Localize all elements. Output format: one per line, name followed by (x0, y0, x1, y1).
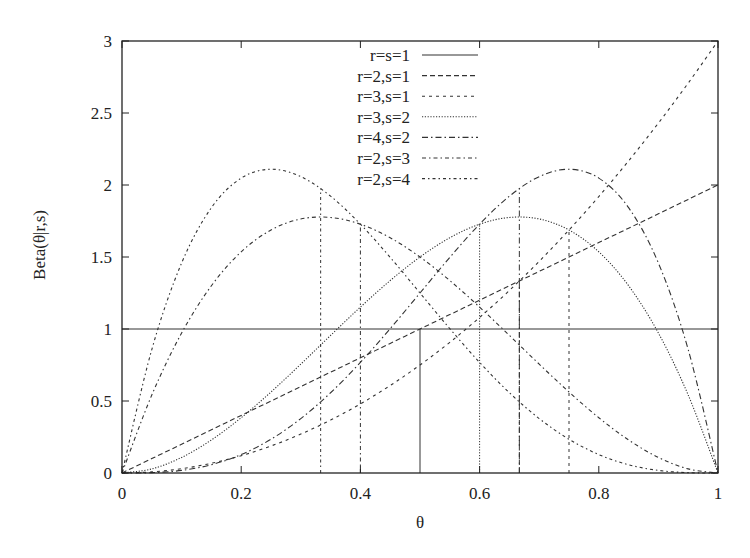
x-tick-label: 0.8 (588, 484, 609, 503)
legend-item: r=s=1 (370, 46, 478, 65)
y-tick-label: 1.5 (91, 248, 112, 267)
legend: r=s=1r=2,s=1r=3,s=1r=3,s=2r=4,s=2r=2,s=3… (357, 46, 478, 189)
legend-label: r=4,s=2 (357, 128, 410, 147)
x-axis-label: θ (416, 513, 424, 532)
legend-label: r=s=1 (370, 46, 410, 65)
y-tick-label: 1 (104, 320, 113, 339)
y-tick-label: 2.5 (91, 104, 112, 123)
y-tick-label: 0.5 (91, 392, 112, 411)
legend-label: r=3,s=1 (357, 87, 410, 106)
y-tick-label: 3 (104, 32, 113, 51)
legend-item: r=2,s=1 (357, 67, 478, 86)
legend-item: r=3,s=1 (357, 87, 478, 106)
x-tick-label: 0 (118, 484, 127, 503)
legend-label: r=2,s=4 (357, 170, 410, 189)
legend-item: r=2,s=3 (357, 149, 478, 168)
y-axis-label: Beta(θ|r,s) (30, 210, 49, 280)
legend-label: r=2,s=1 (357, 67, 410, 86)
legend-item: r=2,s=4 (357, 170, 478, 189)
x-tick-label: 0.6 (469, 484, 490, 503)
legend-label: r=2,s=3 (357, 149, 410, 168)
x-tick-label: 0.4 (350, 484, 372, 503)
y-tick-label: 2 (104, 176, 113, 195)
legend-label: r=3,s=2 (357, 108, 410, 127)
x-tick-label: 1 (714, 484, 723, 503)
beta-distribution-chart: 00.20.40.60.81 00.511.522.53 θ Beta(θ|r,… (0, 0, 750, 558)
x-tick-label: 0.2 (231, 484, 252, 503)
mean-marker-lines (321, 189, 569, 473)
legend-item: r=4,s=2 (357, 128, 478, 147)
legend-item: r=3,s=2 (357, 108, 478, 127)
y-tick-label: 0 (104, 464, 113, 483)
